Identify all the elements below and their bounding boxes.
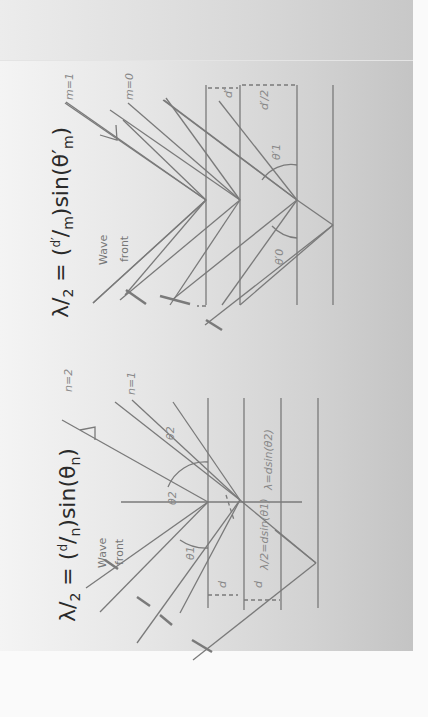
wave-front-label-top-2: front [118,236,131,262]
order-label-m0: m=0 [123,73,136,100]
wave-front-label-bottom-1: Wave [96,538,109,568]
angle-label-theta2-b: θ2 [164,426,177,440]
angle-label-theta0p: θ′0 [273,249,286,265]
spacing-label-dp: d′ [222,89,235,98]
bottom-equation: λ/2 = (d/n)sin(θn) [55,448,83,622]
order-label-n1: n=1 [125,372,138,395]
wave-front-label-top-1: Wave [97,235,110,265]
spacing-label-d2: d [252,581,265,588]
angle-label-theta1p: θ′1 [270,144,283,160]
spacing-label-dp2: d′/2 [258,90,271,110]
order-label-n2: n=2 [62,369,75,392]
angle-label-theta2-a: θ2 [166,491,179,505]
angle-label-theta1: θ1 [184,546,197,560]
spacing-label-d1: d [216,581,229,588]
wave-front-label-bottom-2: front [113,539,126,565]
path-label-lambda: λ=dsin(θ2) [262,429,275,490]
order-label-m1: m=1 [63,73,76,100]
path-label-lambda-half: λ/2=dsin(θ1) [258,499,271,570]
top-equation: λ/2 = (d′/m)sin(θ′m) [48,127,76,318]
top-crystal-planes [206,85,333,305]
